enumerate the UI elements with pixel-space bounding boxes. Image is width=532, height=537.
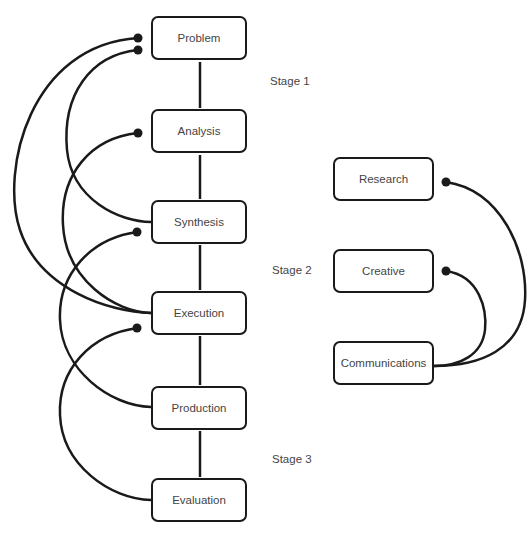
arc-execution-analysis (63, 133, 151, 313)
node-production: Production (151, 386, 247, 430)
connector-dot (134, 129, 143, 138)
stage-label-3: Stage 3 (272, 453, 312, 465)
stage-label-1: Stage 1 (270, 75, 310, 87)
connector-dot (134, 46, 143, 55)
node-analysis: Analysis (151, 109, 247, 153)
arc-production-synthesis (60, 232, 151, 407)
node-creative: Creative (333, 249, 434, 293)
arc-communications-creative (434, 271, 485, 366)
connector-layer (0, 0, 532, 537)
connector-dot (134, 34, 143, 43)
node-communications: Communications (333, 341, 434, 385)
connector-dot (442, 267, 451, 276)
node-problem: Problem (151, 16, 247, 60)
stage-label-2: Stage 2 (272, 264, 312, 276)
connector-dot (133, 228, 142, 237)
node-research: Research (333, 157, 434, 201)
connector-dot (442, 178, 451, 187)
node-synthesis: Synthesis (151, 200, 247, 244)
node-execution: Execution (151, 291, 247, 335)
connector-dot (133, 324, 142, 333)
arc-evaluation-execution (60, 328, 151, 500)
node-evaluation: Evaluation (151, 478, 247, 522)
